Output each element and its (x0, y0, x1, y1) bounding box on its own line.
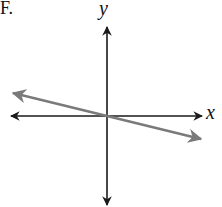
graph-figure: F. y x (0, 0, 222, 207)
coordinate-plane (0, 0, 222, 207)
